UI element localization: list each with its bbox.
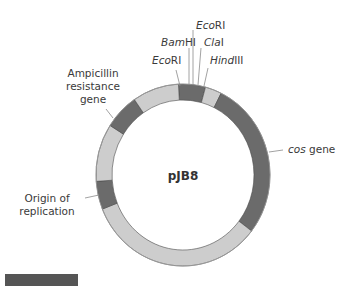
label-ampicillin-line2: resistance	[66, 80, 120, 92]
label-hindiii: HindIII	[210, 54, 243, 66]
ecori-left-leader	[176, 70, 180, 86]
cos-leader	[269, 150, 283, 152]
label-cos-gene: cos gene	[288, 143, 335, 155]
label-ampicillin-line3: gene	[80, 93, 106, 105]
plasmid-map: EcoRI BamHI EcoRI ClaI HindIII Ampicilli…	[0, 0, 354, 286]
label-bamhi: BamHI	[161, 36, 196, 48]
hindiii-leader	[204, 68, 208, 86]
segment-backbone-left	[96, 125, 123, 181]
label-clai: ClaI	[204, 36, 224, 48]
ampicillin-leader	[106, 109, 113, 118]
page-fragment-bar	[5, 274, 78, 286]
segment-backbone-bottom	[102, 203, 251, 266]
label-ecori-left: EcoRI	[152, 54, 181, 66]
segment-cos-gene	[214, 93, 270, 231]
label-ecori-top: EcoRI	[196, 19, 225, 31]
label-origin-line1: Origin of	[24, 192, 69, 204]
label-origin-line2: replication	[19, 205, 74, 217]
clai-leader	[198, 48, 201, 85]
origin-leader	[85, 195, 99, 198]
segment-cloning-site	[178, 84, 205, 103]
plasmid-name: pJB8	[168, 169, 199, 183]
label-ampicillin-line1: Ampicillin	[67, 67, 118, 79]
